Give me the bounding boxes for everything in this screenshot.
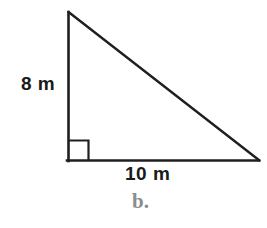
vertical-leg-label: 8 m [21,74,55,93]
right-angle-marker [69,141,89,161]
part-label: b. [132,191,149,212]
figure-canvas: 8 m 10 m b. [0,0,267,228]
hypotenuse-line [69,12,260,161]
horizontal-leg-label: 10 m [125,164,170,183]
